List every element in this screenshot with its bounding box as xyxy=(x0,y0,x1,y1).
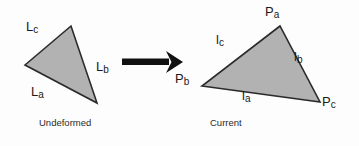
figure-canvas: Lc Lb La Undeformed Pa Pb Pc lc lb la Cu… xyxy=(0,0,359,146)
label-lc: lc xyxy=(216,33,224,48)
right-arrow-icon xyxy=(122,51,183,73)
label-lb: lb xyxy=(294,50,302,65)
label-Pc: Pc xyxy=(322,95,336,110)
label-Pb: Pb xyxy=(175,72,189,87)
label-Pa: Pa xyxy=(265,5,279,20)
current-caption: Current xyxy=(210,118,242,128)
label-la: la xyxy=(242,89,250,104)
undeformed-caption: Undeformed xyxy=(39,118,91,128)
label-Lc: Lc xyxy=(26,20,38,35)
label-Lb: Lb xyxy=(96,60,109,75)
label-La: La xyxy=(31,85,44,100)
